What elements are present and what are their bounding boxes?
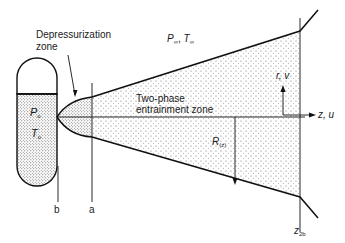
depressurization-pointer-arrow [68,55,78,97]
tank-pressure-label: Po [30,107,41,119]
axis-z-label: z, u [318,110,334,120]
depressurization-label-line1: Depressurization [36,29,111,41]
plane-b-label: b [54,205,60,215]
two-phase-zone-label: Two-phase entrainment zone [136,93,213,115]
tank [17,58,57,186]
ambient-conditions-label: P∞, T∞ [167,34,194,45]
plane-a-label: a [89,205,95,215]
two-phase-label-line1: Two-phase [136,93,213,104]
radius-label: R(z) [212,137,226,148]
tank-temperature-label: To [31,128,41,140]
depressurization-label-line2: zone [36,41,111,53]
plane-z2b-label: z2b [294,226,306,237]
depressurization-zone-label: Depressurization zone [36,29,111,53]
axis-r-label: r, v [276,71,289,81]
two-phase-label-line2: entrainment zone [136,104,213,115]
